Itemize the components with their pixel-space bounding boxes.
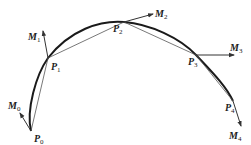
label-p1: P1 [51,61,61,74]
vector-m1 [43,31,48,58]
label-m0: M0 [7,100,21,113]
chord-polyline [31,22,233,131]
vector-m2 [124,14,153,22]
label-m2: M2 [154,8,168,21]
smooth-curve [30,22,233,131]
label-m3: M3 [229,42,243,55]
label-p3: P3 [188,56,198,69]
label-m4: M4 [228,130,242,143]
label-m1: M1 [27,31,41,44]
curve-diagram: P0 P1 P2 P3 P4 M0 M1 M2 M3 M4 [0,0,251,145]
label-p2: P2 [113,23,123,36]
label-p0: P0 [34,133,44,145]
